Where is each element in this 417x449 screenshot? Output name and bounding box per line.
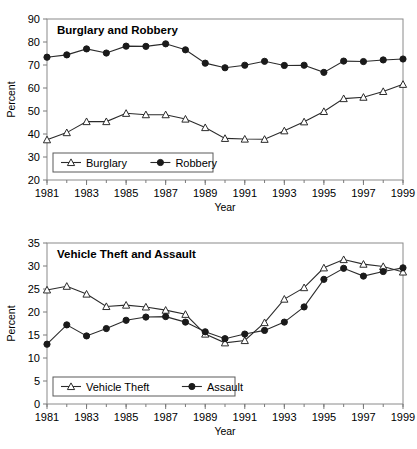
x-axis-tick-label: 1991 — [233, 411, 257, 423]
x-axis-tick-label: 1993 — [272, 411, 296, 423]
data-point-marker — [340, 256, 347, 263]
y-axis-tick-label: 20 — [28, 306, 40, 318]
y-axis-tick-label: 30 — [28, 151, 40, 163]
x-axis-label: Year — [214, 425, 236, 437]
y-axis-tick-label: 0 — [34, 398, 40, 410]
data-point-marker — [63, 283, 70, 290]
data-point-marker — [83, 290, 90, 297]
legend-label-assault: Assault — [207, 381, 243, 393]
x-axis-tick-label: 1981 — [35, 411, 59, 423]
data-point-marker — [341, 58, 347, 64]
y-axis-tick-label: 60 — [28, 82, 40, 94]
data-point-marker — [123, 43, 129, 49]
data-point-marker — [400, 56, 406, 62]
data-point-marker — [123, 317, 129, 323]
data-point-marker — [43, 136, 50, 143]
data-point-marker — [281, 127, 288, 134]
data-point-marker — [301, 304, 307, 310]
x-axis-tick-label: 1987 — [153, 187, 177, 199]
x-axis-tick-label: 1987 — [153, 411, 177, 423]
series-vehicle-theft — [43, 256, 406, 346]
series-assault — [44, 265, 406, 348]
data-point-marker — [281, 62, 287, 68]
line-chart-burglary-robbery: 2030405060708090198119831985198719891991… — [0, 0, 417, 224]
data-point-marker — [301, 62, 307, 68]
data-point-marker — [202, 329, 208, 335]
data-point-marker — [400, 265, 406, 271]
y-axis-tick-label: 30 — [28, 260, 40, 272]
series-robbery — [44, 41, 406, 76]
data-point-marker — [143, 43, 149, 49]
data-point-marker — [163, 314, 169, 320]
data-point-marker — [281, 296, 288, 303]
data-point-marker — [321, 276, 327, 282]
x-axis-tick-label: 1985 — [114, 187, 138, 199]
y-axis-tick-label: 35 — [28, 237, 40, 249]
data-point-marker — [103, 50, 109, 56]
legend-label-vehicle-theft: Vehicle Theft — [86, 381, 149, 393]
data-point-marker — [341, 265, 347, 271]
legend: BurglaryRobbery — [53, 153, 217, 172]
x-axis-tick-label: 1989 — [193, 411, 217, 423]
x-axis-tick-label: 1981 — [35, 187, 59, 199]
x-axis-tick-label: 1999 — [391, 187, 415, 199]
data-point-marker — [64, 322, 70, 328]
data-point-marker — [143, 314, 149, 320]
chart-panel-burglary-robbery: 2030405060708090198119831985198719891991… — [0, 0, 417, 224]
data-point-marker — [202, 60, 208, 66]
y-axis-tick-label: 80 — [28, 36, 40, 48]
data-point-marker — [380, 268, 386, 274]
y-axis-tick-label: 40 — [28, 128, 40, 140]
data-point-marker — [182, 319, 188, 325]
data-point-marker — [182, 47, 188, 53]
legend-label-burglary: Burglary — [86, 157, 127, 169]
data-point-marker — [83, 333, 89, 339]
legend: Vehicle TheftAssault — [53, 377, 243, 396]
data-point-marker — [380, 57, 386, 63]
x-axis-tick-label: 1989 — [193, 187, 217, 199]
x-axis-tick-label: 1993 — [272, 187, 296, 199]
data-point-marker — [320, 108, 327, 115]
data-point-marker — [83, 46, 89, 52]
data-point-marker — [242, 331, 248, 337]
y-axis-tick-label: 90 — [28, 13, 40, 25]
data-point-marker — [360, 273, 366, 279]
data-point-marker — [163, 41, 169, 47]
data-point-marker — [261, 327, 267, 333]
data-point-marker — [157, 159, 163, 165]
x-axis-label: Year — [214, 201, 236, 213]
x-axis-tick-label: 1983 — [74, 411, 98, 423]
data-point-marker — [261, 58, 267, 64]
data-point-marker — [44, 54, 50, 60]
chart-panel-vehicle-theft-assault: 0510152025303519811983198519871989199119… — [0, 224, 417, 448]
data-point-marker — [399, 81, 406, 88]
y-axis-label: Percent — [5, 81, 17, 117]
plot-title: Burglary and Robbery — [57, 24, 178, 36]
data-point-marker — [360, 58, 366, 64]
x-axis-tick-label: 1995 — [312, 411, 336, 423]
data-point-marker — [202, 124, 209, 131]
x-axis-tick-label: 1985 — [114, 411, 138, 423]
data-point-marker — [321, 69, 327, 75]
data-point-marker — [103, 325, 109, 331]
data-point-marker — [64, 52, 70, 58]
x-axis-tick-label: 1997 — [351, 187, 375, 199]
data-point-marker — [281, 319, 287, 325]
series-burglary — [43, 81, 406, 143]
y-axis-tick-label: 15 — [28, 329, 40, 341]
x-axis-tick-label: 1991 — [233, 187, 257, 199]
y-axis-tick-label: 25 — [28, 283, 40, 295]
data-point-marker — [189, 383, 195, 389]
data-point-marker — [63, 129, 70, 136]
line-chart-vehicle-theft-assault: 0510152025303519811983198519871989199119… — [0, 224, 417, 449]
x-axis-tick-label: 1983 — [74, 187, 98, 199]
x-axis-tick-label: 1995 — [312, 187, 336, 199]
y-axis-tick-label: 50 — [28, 105, 40, 117]
plot-title: Vehicle Theft and Assault — [57, 248, 196, 260]
y-axis-tick-label: 20 — [28, 174, 40, 186]
legend-label-robbery: Robbery — [175, 157, 217, 169]
y-axis-tick-label: 10 — [28, 352, 40, 364]
data-point-marker — [301, 118, 308, 125]
data-point-marker — [44, 341, 50, 347]
data-point-marker — [380, 88, 387, 95]
